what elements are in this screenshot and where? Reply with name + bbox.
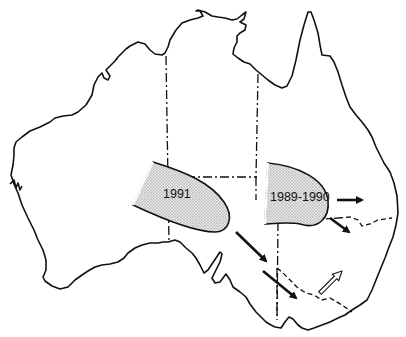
border-qld-nsw-east (338, 217, 392, 226)
shark-bay (10, 180, 22, 190)
arrow-southeast-2 (236, 232, 266, 261)
border-nt-qld (256, 74, 258, 177)
coastline (11, 10, 398, 330)
arrow-southeast-1 (330, 218, 349, 232)
australia-map: 1991 1989-1990 (0, 0, 406, 337)
arrow-southeast-3 (263, 271, 296, 298)
arrow-hollow-northeast (317, 268, 345, 296)
label-1989-1990: 1989-1990 (270, 190, 330, 204)
label-1991: 1991 (163, 187, 191, 201)
